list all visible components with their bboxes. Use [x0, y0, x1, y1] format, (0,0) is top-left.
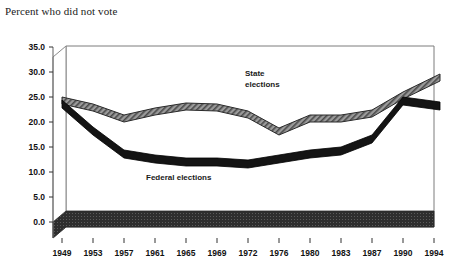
plot-floor-slab [53, 211, 434, 238]
xtick-label-1976: 1976 [270, 248, 289, 258]
xtick-label-1987: 1987 [363, 248, 382, 258]
xtick-label-1972: 1972 [239, 248, 258, 258]
ytick-label-5: 5.0 [33, 192, 45, 202]
chart-container: Percent who did not vote [0, 0, 455, 269]
xtick-label-1961: 1961 [146, 248, 165, 258]
line-chart-plot: 35.0 30.0 25.0 20.0 15.0 10.0 5.0 0.0 [0, 0, 455, 269]
ytick-label-0: 0.0 [33, 217, 45, 227]
y-axis: 35.0 30.0 25.0 20.0 15.0 10.0 5.0 0.0 [28, 42, 53, 238]
ytick-label-10: 10.0 [28, 167, 45, 177]
xtick-label-1949: 1949 [53, 248, 72, 258]
ytick-label-15: 15.0 [28, 142, 45, 152]
xtick-label-1965: 1965 [177, 248, 196, 258]
annotation-federal-elections: Federal elections [146, 173, 212, 182]
annotation-state-line2: elections [245, 80, 280, 89]
ytick-label-35: 35.0 [28, 42, 45, 52]
x-axis-ticks [62, 238, 434, 243]
xtick-label-1953: 1953 [84, 248, 103, 258]
x-axis: 1949 1953 1957 1961 1965 1969 1972 1976 … [53, 238, 444, 258]
y-axis-ticks [49, 47, 53, 222]
ytick-label-20: 20.0 [28, 117, 45, 127]
ytick-label-25: 25.0 [28, 92, 45, 102]
xtick-label-1994: 1994 [425, 248, 444, 258]
annotation-federal-line1: Federal elections [146, 173, 212, 182]
xtick-label-1969: 1969 [208, 248, 227, 258]
xtick-label-1957: 1957 [115, 248, 134, 258]
ytick-label-30: 30.0 [28, 67, 45, 77]
plot-depth-face [53, 46, 66, 238]
xtick-label-1990: 1990 [394, 248, 413, 258]
xtick-label-1980: 1980 [301, 248, 320, 258]
annotation-state-line1: State [245, 69, 265, 78]
xtick-label-1983: 1983 [332, 248, 351, 258]
